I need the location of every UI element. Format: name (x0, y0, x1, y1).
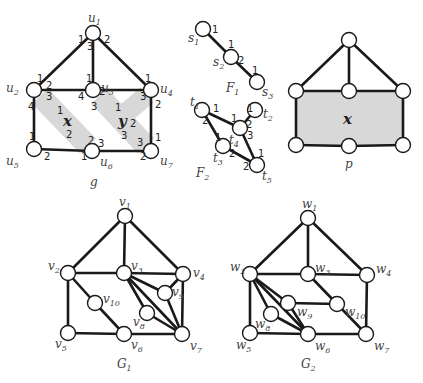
node-label-u2: u2 (6, 81, 19, 97)
port-number: 1 (231, 113, 237, 124)
port-number: 1 (78, 34, 84, 45)
node-label-u7: u7 (160, 154, 174, 170)
node-p3 (342, 84, 357, 99)
node-label-w3: w3 (315, 261, 330, 277)
node-label-u4: u4 (160, 82, 173, 98)
node-label-v2: v2 (48, 259, 60, 275)
node-label-v6: v6 (131, 338, 143, 354)
port-number: 2 (229, 148, 235, 159)
node-p2 (289, 84, 304, 99)
node-s1 (196, 22, 211, 37)
node-label-w2: w2 (230, 260, 245, 276)
port-number: 2 (243, 161, 249, 172)
node-label-t1: t1 (190, 95, 200, 111)
port-number: 2 (238, 55, 244, 66)
node-label-v4: v4 (193, 266, 205, 282)
port-number: 3 (46, 91, 52, 102)
port-number: 1 (86, 73, 92, 84)
graph-figure: u1u2u3u4u5u6u7s1s2s3t1t2t4t3t5v1v2v3v4v5… (0, 0, 423, 383)
port-number: 1 (213, 103, 219, 114)
port-number: 2 (140, 151, 146, 162)
node-w10 (330, 297, 345, 312)
port-number: 2 (46, 80, 52, 91)
node-label-w10: w10 (345, 305, 365, 321)
edge-v3-v4 (124, 273, 183, 274)
node-u2 (27, 83, 42, 98)
port-number: 2 (130, 118, 136, 129)
node-p7 (396, 138, 411, 153)
port-number: 3 (247, 130, 253, 141)
node-label-w6: w6 (315, 339, 330, 355)
caption-G2: G2 (301, 357, 316, 373)
node-u1 (86, 26, 101, 41)
port-number: 2 (202, 115, 208, 126)
node-s2 (224, 50, 239, 65)
caption-g: g (90, 175, 98, 189)
edge-v1-v2 (68, 216, 125, 273)
edge-w1-w2 (250, 218, 308, 274)
port-number: 1 (228, 39, 234, 50)
node-label-w9: w9 (297, 305, 312, 321)
node-u5 (27, 142, 42, 157)
port-number: 1 (155, 132, 161, 143)
port-number: 1 (247, 103, 253, 114)
node-w4 (360, 268, 375, 283)
node-label-u1: u1 (88, 11, 101, 27)
node-v10 (88, 296, 103, 311)
node-v5 (61, 326, 76, 341)
port-number: 1 (37, 73, 43, 84)
node-w7 (359, 327, 374, 342)
node-label-v7: v7 (190, 339, 203, 355)
node-v7 (175, 327, 190, 342)
node-label-t2: t2 (263, 107, 273, 123)
caption-p: p (345, 157, 353, 171)
port-number: 1 (252, 65, 258, 76)
port-number: 2 (104, 34, 110, 45)
face-label-y: y (117, 112, 128, 130)
port-number: 2 (66, 129, 72, 140)
port-number: 2 (88, 135, 94, 146)
node-label-v1: v1 (119, 195, 131, 211)
node-v6 (117, 327, 132, 342)
edge-p1-p4 (349, 40, 403, 91)
port-number: 4 (28, 101, 34, 112)
edge-v1-v3 (124, 216, 125, 273)
node-p5 (289, 138, 304, 153)
node-label-u6: u6 (100, 155, 113, 171)
edge-p1-p2 (296, 40, 349, 91)
port-number: 3 (121, 130, 127, 141)
node-v3 (117, 266, 132, 281)
edge-w5-w6 (250, 333, 308, 334)
node-label-t5: t5 (262, 169, 272, 185)
port-number: 3 (98, 138, 104, 149)
node-v9 (158, 286, 173, 301)
edge-v5-v6 (68, 333, 124, 334)
port-number: 4 (78, 91, 84, 102)
port-number: 1 (212, 24, 218, 35)
port-number: 2 (246, 119, 252, 130)
node-label-v10: v10 (103, 292, 120, 308)
node-w6 (301, 327, 316, 342)
port-number: 2 (44, 151, 50, 162)
caption-F2: F2 (195, 166, 209, 182)
port-number: 3 (87, 41, 93, 52)
port-number: 2 (155, 99, 161, 110)
node-label-s3: s3 (262, 85, 273, 101)
node-label-s2: s2 (213, 55, 224, 71)
node-label-w4: w4 (376, 262, 391, 278)
port-number: 3 (137, 137, 143, 148)
edge-v4-v7 (182, 274, 183, 334)
port-number: 1 (215, 132, 221, 143)
node-v8 (140, 306, 155, 321)
caption-G1: G1 (117, 357, 132, 373)
port-number: 3 (91, 101, 97, 112)
port-number: 1 (81, 151, 87, 162)
node-w9 (281, 296, 296, 311)
node-p6 (342, 139, 357, 154)
port-number: 1 (258, 148, 264, 159)
port-number: 1 (29, 131, 35, 142)
face-label-p-x: x (342, 110, 353, 128)
node-label-w7: w7 (374, 339, 390, 355)
node-p1 (342, 33, 357, 48)
node-label-v3: v3 (131, 259, 143, 275)
